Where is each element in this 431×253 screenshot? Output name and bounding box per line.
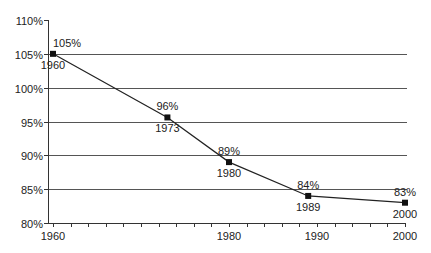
- series-line: [53, 54, 405, 203]
- y-tick-label: 90%: [21, 150, 43, 162]
- data-point-marker: [402, 200, 408, 206]
- x-tick-label: 1990: [305, 230, 329, 242]
- y-axis: 80%85%90%95%100%105%110%: [15, 15, 49, 230]
- data-point-marker: [164, 114, 170, 120]
- x-axis: 1960198019902000: [41, 223, 417, 242]
- data-series: 105%196096%197389%198084%198983%2000: [41, 37, 417, 220]
- data-point-marker: [305, 193, 311, 199]
- value-label: 83%: [394, 186, 416, 198]
- data-point-marker: [50, 51, 56, 57]
- value-label: 84%: [297, 179, 319, 191]
- line-chart: 80%85%90%95%100%105%110% 196019801990200…: [0, 0, 431, 253]
- value-label: 89%: [218, 145, 240, 157]
- y-tick-label: 85%: [21, 184, 43, 196]
- year-label: 1973: [155, 122, 179, 134]
- y-tick-label: 105%: [15, 49, 43, 61]
- y-tick-label: 100%: [15, 83, 43, 95]
- y-tick-label: 80%: [21, 218, 43, 230]
- value-label: 105%: [53, 37, 81, 49]
- data-point-marker: [226, 159, 232, 165]
- year-label: 1960: [41, 59, 65, 71]
- year-label: 1989: [296, 201, 320, 213]
- x-tick-label: 2000: [393, 230, 417, 242]
- x-tick-label: 1960: [41, 230, 65, 242]
- y-tick-label: 110%: [16, 15, 44, 27]
- value-label: 96%: [156, 100, 178, 112]
- y-tick-label: 95%: [21, 117, 43, 129]
- x-tick-label: 1980: [217, 230, 241, 242]
- year-label: 2000: [393, 208, 417, 220]
- year-label: 1980: [217, 167, 241, 179]
